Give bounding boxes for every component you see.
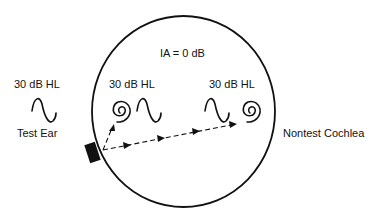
arrowhead-4-icon: [229, 121, 237, 128]
arrowhead-1-icon: [123, 142, 131, 149]
signal-path-to-nontest-cochlea: [103, 124, 236, 150]
test-cochlea-sine-wave-icon: [137, 99, 161, 122]
ia-label: IA = 0 dB: [160, 47, 205, 59]
arrowhead-test-cochlea-icon: [109, 124, 115, 131]
signal-path-to-test-cochlea: [103, 128, 112, 150]
diagram-canvas: IA = 0 dB 30 dB HL Test Ear 30 dB HL 30 …: [0, 0, 378, 222]
test-cochlea-level-label: 30 dB HL: [109, 78, 155, 90]
nontest-cochlea-spiral-icon: [243, 101, 260, 122]
nontest-cochlea-level-label: 30 dB HL: [209, 78, 255, 90]
test-ear-level-label: 30 dB HL: [14, 78, 60, 90]
test-cochlea-spiral-icon: [113, 101, 130, 122]
nontest-cochlea-sine-wave-icon: [205, 99, 229, 122]
test-ear-label: Test Ear: [17, 127, 58, 139]
nontest-cochlea-label: Nontest Cochlea: [283, 127, 365, 139]
arrowhead-2-icon: [157, 135, 165, 142]
test-ear-sine-wave-icon: [32, 99, 56, 122]
interaural-attenuation-diagram: IA = 0 dB 30 dB HL Test Ear 30 dB HL 30 …: [0, 0, 378, 222]
arrowhead-3-icon: [192, 128, 200, 135]
